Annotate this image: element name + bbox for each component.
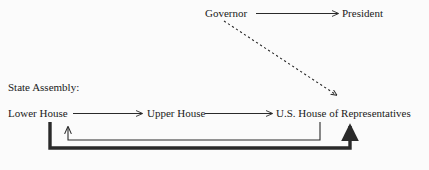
node-label-us-house: U.S. House of Representatives — [276, 107, 411, 120]
diagram-canvas: Governor President State Assembly: Lower… — [0, 0, 429, 170]
node-label-governor: Governor — [205, 7, 247, 20]
section-label-state-assembly: State Assembly: — [8, 81, 79, 94]
edge-inner-feedback-loop — [68, 122, 320, 140]
edge-governor-to-us-house — [224, 21, 337, 95]
node-label-upper-house: Upper House — [147, 107, 205, 120]
node-label-president: President — [342, 7, 383, 20]
edge-outer-feedback-loop — [50, 122, 350, 148]
node-label-lower-house: Lower House — [8, 107, 68, 120]
